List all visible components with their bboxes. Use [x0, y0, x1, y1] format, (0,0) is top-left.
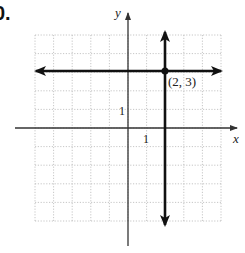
x-axis-label: x	[232, 131, 239, 146]
coordinate-graph: 0. x y 1 1 (2, 3)	[0, 0, 245, 253]
x-tick-label: 1	[143, 132, 149, 146]
y-axis-label: y	[113, 5, 121, 20]
problem-number: 0.	[0, 2, 11, 25]
graph-svg: x y 1 1 (2, 3)	[0, 0, 245, 253]
y-tick-label: 1	[119, 104, 125, 118]
point-label: (2, 3)	[168, 74, 196, 89]
